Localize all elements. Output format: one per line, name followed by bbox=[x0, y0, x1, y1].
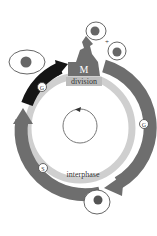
nucleus bbox=[94, 196, 103, 205]
mitosis-letter: M bbox=[80, 64, 89, 75]
cell-top-daughter-1 bbox=[86, 22, 106, 40]
division-label: division bbox=[71, 77, 97, 86]
svg-text:G: G bbox=[40, 85, 45, 91]
nucleus bbox=[91, 27, 100, 36]
s-marker: S bbox=[39, 164, 48, 173]
center-cycle-icon bbox=[63, 107, 97, 143]
nucleus bbox=[113, 48, 122, 57]
cell-left-large bbox=[9, 50, 45, 74]
cell-cycle-diagram: M division interphase G G S + bbox=[0, 0, 157, 236]
nucleus bbox=[21, 57, 32, 68]
svg-text:S: S bbox=[41, 166, 44, 172]
plus-sign: + bbox=[105, 38, 109, 46]
interphase-label: interphase bbox=[67, 170, 100, 179]
g1-arrowhead bbox=[104, 174, 124, 196]
svg-text:G: G bbox=[142, 122, 147, 128]
g2-marker: G bbox=[38, 83, 47, 92]
cell-top-daughter-2 bbox=[108, 42, 126, 60]
cell-bottom bbox=[84, 190, 110, 214]
g1-marker: G bbox=[140, 120, 149, 129]
